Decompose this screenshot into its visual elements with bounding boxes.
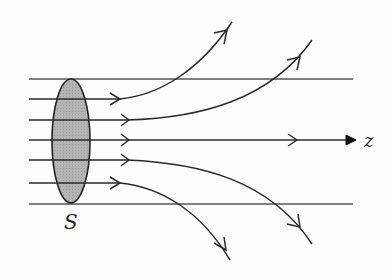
field-line-diagram xyxy=(0,0,390,278)
surface-s xyxy=(52,79,90,203)
z-axis-label: z xyxy=(364,130,373,151)
surface-label: S xyxy=(64,210,78,234)
